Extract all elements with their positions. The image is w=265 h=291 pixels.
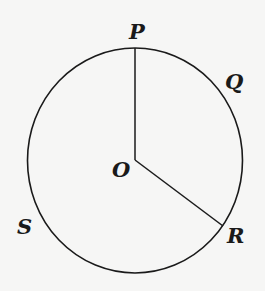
circle-diagram: P Q R S O <box>0 0 265 291</box>
point-label-r: R <box>226 223 244 248</box>
center-label-o: O <box>112 157 131 182</box>
point-label-p: P <box>128 19 146 44</box>
radius-or <box>135 160 223 226</box>
point-label-q: Q <box>225 69 243 94</box>
point-label-s: S <box>17 214 32 239</box>
diagram-canvas: P Q R S O <box>0 0 265 291</box>
